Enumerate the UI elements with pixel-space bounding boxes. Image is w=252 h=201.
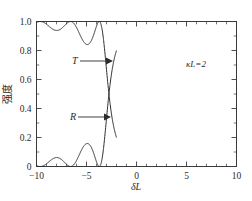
parameter-annotation: κL=2 bbox=[186, 59, 206, 69]
x-tick-label: 5 bbox=[184, 171, 189, 181]
x-tick-label: 0 bbox=[134, 171, 139, 181]
y-tick-label: 0 bbox=[27, 162, 32, 172]
y-tick-label: 0.2 bbox=[20, 133, 32, 143]
y-tick-label: 0.8 bbox=[20, 46, 32, 56]
figure-container: −10−50510 00.20.40.60.81.0 T R κL=2 δL 强… bbox=[0, 0, 252, 201]
y-tick-label: 0.6 bbox=[20, 75, 32, 85]
y-tick-label: 0.4 bbox=[20, 104, 32, 114]
reflection-label: R bbox=[69, 111, 76, 122]
intensity-vs-delta-l-plot: −10−50510 00.20.40.60.81.0 T R κL=2 δL 强… bbox=[0, 0, 252, 201]
x-tick-label: −10 bbox=[29, 171, 44, 181]
x-tick-label: −5 bbox=[81, 171, 91, 181]
x-tick-label: 10 bbox=[232, 171, 242, 181]
x-axis-title: δL bbox=[131, 181, 142, 192]
y-tick-label: 1.0 bbox=[20, 17, 32, 27]
y-axis-title: 强度 bbox=[1, 84, 13, 104]
